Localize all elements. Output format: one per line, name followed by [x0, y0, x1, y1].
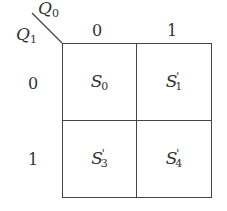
- row-variable-label: Q1: [16, 26, 37, 45]
- kmap-cell-r0-c1: S'1: [136, 43, 212, 121]
- column-header-0: 0: [92, 23, 102, 39]
- row-header-1: 1: [28, 152, 38, 168]
- row-header-0: 0: [28, 76, 38, 92]
- column-header-1: 1: [167, 23, 177, 39]
- kmap-cell-r0-c0: S0: [62, 43, 137, 121]
- kmap-cell-r1-c1: S'4: [136, 120, 212, 198]
- column-variable-label: Q0: [38, 0, 59, 19]
- kmap-cell-r1-c0: S'3: [62, 120, 137, 198]
